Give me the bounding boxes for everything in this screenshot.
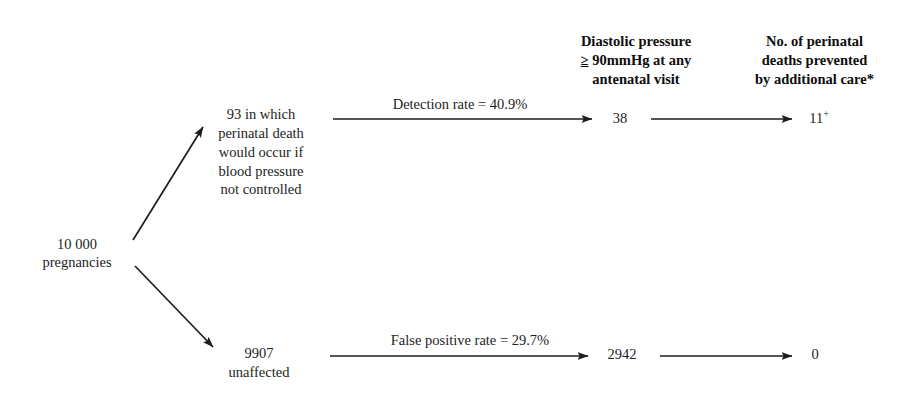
arrow-root-to-unaffected bbox=[135, 266, 213, 347]
column-header-screen-positive-line3: antenatal visit bbox=[560, 70, 712, 89]
node-deaths-prevented-value: 11 bbox=[809, 110, 823, 126]
column-header-screen-positive: Diastolic pressure ≥ 90mmHg at any anten… bbox=[560, 32, 712, 89]
edge-label-false-positive-rate: False positive rate = 29.7% bbox=[350, 332, 590, 349]
arrow-root-to-affected bbox=[133, 127, 203, 240]
column-header-deaths-prevented-line1: No. of perinatal bbox=[733, 32, 896, 51]
node-true-positives: 38 bbox=[596, 110, 644, 128]
node-deaths-prevented-unaffected: 0 bbox=[795, 346, 835, 364]
column-header-screen-positive-line1: Diastolic pressure bbox=[560, 32, 712, 51]
column-header-deaths-prevented-line3: by additional care* bbox=[733, 70, 896, 89]
edge-label-detection-rate: Detection rate = 40.9% bbox=[330, 96, 590, 113]
column-header-screen-positive-line2: ≥ 90mmHg at any bbox=[560, 51, 712, 70]
node-deaths-prevented: 11+ bbox=[795, 110, 843, 128]
node-total-pregnancies: 10 000 pregnancies bbox=[14, 236, 140, 271]
column-header-deaths-prevented-line2: deaths prevented bbox=[733, 51, 896, 70]
column-header-deaths-prevented: No. of perinatal deaths prevented by add… bbox=[733, 32, 896, 89]
node-unaffected-pregnancies: 9907 unaffected bbox=[200, 344, 318, 382]
node-false-positives: 2942 bbox=[592, 346, 652, 364]
node-affected-pregnancies: 93 in which perinatal death would occur … bbox=[200, 105, 322, 199]
column-header-screen-positive-line2-rest: 90mmHg at any bbox=[589, 52, 692, 68]
flowchart-canvas: Diastolic pressure ≥ 90mmHg at any anten… bbox=[0, 0, 910, 409]
greater-equal-symbol: ≥ bbox=[581, 52, 589, 68]
node-deaths-prevented-superscript: + bbox=[823, 108, 829, 119]
